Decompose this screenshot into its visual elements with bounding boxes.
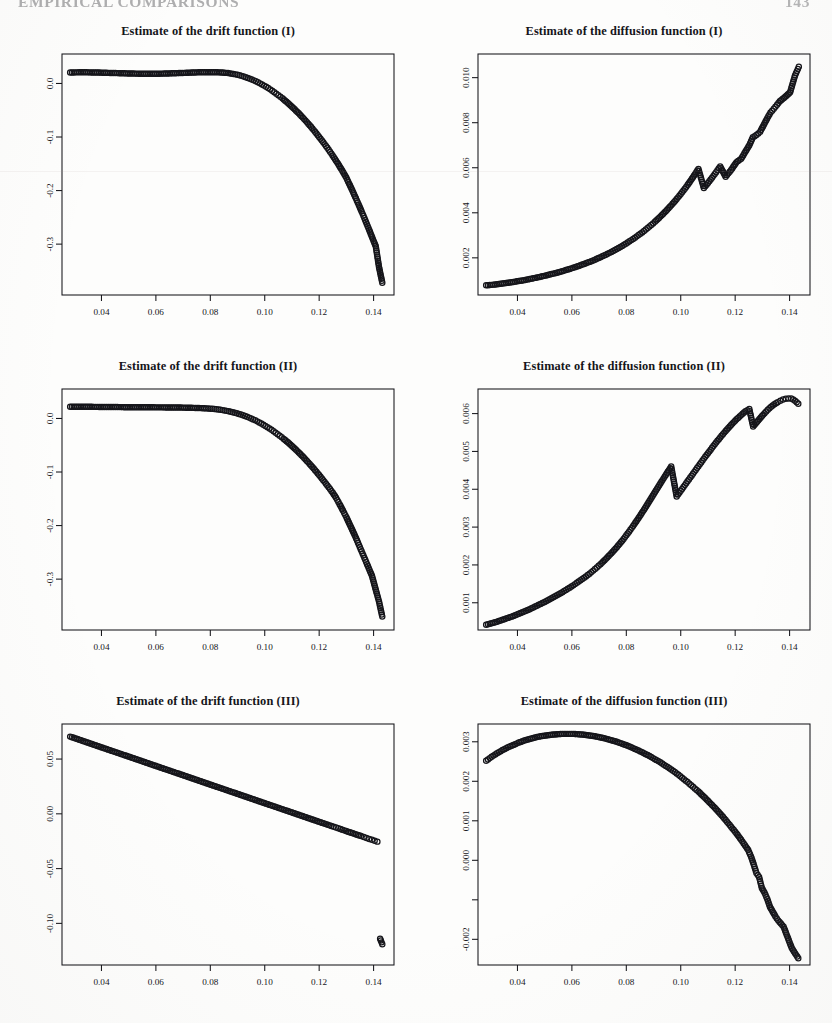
x-tick-label: 0.04 [93, 307, 109, 317]
plot-panel-drift-2: Estimate of the drift function (II)0.040… [0, 353, 416, 688]
plot-panel-diffusion-1: Estimate of the diffusion function (I)0.… [416, 18, 832, 353]
x-tick-label: 0.06 [148, 307, 164, 317]
data-series-diffusion-1 [484, 64, 802, 288]
y-tick-label: 0.002 [461, 554, 471, 575]
x-tick-label: 0.10 [673, 307, 689, 317]
x-tick-label: 0.14 [366, 977, 382, 987]
y-tick-label: -0.2 [45, 518, 55, 533]
figure-grid: Estimate of the drift function (I)0.040.… [0, 18, 832, 1023]
x-tick-label: 0.14 [782, 307, 798, 317]
y-tick-label: -0.1 [45, 464, 55, 479]
y-tick-label: 0.000 [461, 850, 471, 871]
x-tick-label: 0.12 [727, 307, 743, 317]
x-tick-label: 0.14 [782, 977, 798, 987]
x-tick-label: 0.12 [311, 977, 327, 987]
plot-canvas-diffusion-3: 0.040.060.080.100.120.140.0030.0020.0010… [416, 688, 832, 1023]
data-series-diffusion-3 [484, 731, 801, 961]
y-tick-label: -0.3 [45, 236, 55, 251]
x-tick-label: 0.10 [673, 642, 689, 652]
y-tick-label: 0.001 [461, 592, 471, 613]
y-tick-label: 0.010 [461, 67, 471, 88]
x-tick-label: 0.04 [509, 977, 525, 987]
x-tick-label: 0.10 [257, 642, 273, 652]
plot-canvas-diffusion-2: 0.040.060.080.100.120.140.0010.0020.0030… [416, 353, 832, 688]
y-tick-label: -0.05 [45, 859, 55, 879]
y-tick-label: 0.003 [461, 516, 471, 537]
x-tick-label: 0.08 [618, 977, 634, 987]
y-tick-label: 0.006 [461, 403, 471, 424]
y-tick-label: 0.003 [461, 731, 471, 752]
x-tick-label: 0.12 [311, 307, 327, 317]
plot-frame [62, 724, 394, 965]
running-head: EMPIRICAL COMPARISONS 143 [0, 0, 832, 9]
x-tick-label: 0.12 [311, 642, 327, 652]
x-tick-label: 0.06 [564, 642, 580, 652]
data-series-drift-3 [68, 734, 385, 947]
x-tick-label: 0.06 [148, 977, 164, 987]
plot-panel-diffusion-3: Estimate of the diffusion function (III)… [416, 688, 832, 1023]
data-series-drift-1 [68, 70, 385, 286]
x-tick-label: 0.10 [257, 977, 273, 987]
x-tick-label: 0.06 [564, 977, 580, 987]
x-tick-label: 0.12 [727, 977, 743, 987]
y-tick-label: -0.2 [45, 183, 55, 198]
x-tick-label: 0.06 [564, 307, 580, 317]
x-tick-label: 0.14 [366, 642, 382, 652]
x-tick-label: 0.08 [618, 642, 634, 652]
x-tick-label: 0.12 [727, 642, 743, 652]
plot-panel-drift-3: Estimate of the drift function (III)0.04… [0, 688, 416, 1023]
x-tick-label: 0.08 [618, 307, 634, 317]
x-tick-label: 0.10 [257, 307, 273, 317]
x-tick-label: 0.10 [673, 977, 689, 987]
y-tick-label: 0.0 [45, 412, 55, 424]
y-tick-label: 0.002 [461, 771, 471, 792]
plot-canvas-diffusion-1: 0.040.060.080.100.120.140.0020.0040.0060… [416, 18, 832, 353]
x-tick-label: 0.14 [366, 307, 382, 317]
plot-canvas-drift-2: 0.040.060.080.100.120.140.0-0.1-0.2-0.3 [0, 353, 416, 688]
x-tick-label: 0.14 [782, 642, 798, 652]
y-tick-label: 0.002 [461, 247, 471, 268]
y-tick-label: -0.1 [45, 129, 55, 144]
plot-canvas-drift-3: 0.040.060.080.100.120.140.050.00-0.05-0.… [0, 688, 416, 1023]
y-tick-label: -0.10 [45, 913, 55, 933]
running-head-title: EMPIRICAL COMPARISONS [18, 0, 239, 9]
y-tick-label: 0.008 [461, 112, 471, 133]
x-tick-label: 0.04 [93, 977, 109, 987]
y-tick-label: 0.00 [45, 805, 55, 821]
y-tick-label: 0.0 [45, 77, 55, 89]
x-tick-label: 0.04 [93, 642, 109, 652]
x-tick-label: 0.04 [509, 307, 525, 317]
x-tick-label: 0.08 [202, 642, 218, 652]
plot-frame [478, 54, 810, 295]
y-tick-label: -0.3 [45, 571, 55, 586]
plot-panel-drift-1: Estimate of the drift function (I)0.040.… [0, 18, 416, 353]
data-series-drift-2 [68, 404, 385, 619]
y-tick-label: 0.004 [461, 479, 471, 500]
x-tick-label: 0.04 [509, 642, 525, 652]
y-tick-label: -0.002 [461, 927, 471, 951]
y-tick-label: 0.001 [461, 810, 471, 831]
y-tick-label: 0.004 [461, 202, 471, 223]
plot-frame [478, 724, 810, 965]
y-tick-label: 0.05 [45, 751, 55, 767]
y-tick-label: 0.005 [461, 441, 471, 462]
data-series-diffusion-2 [484, 396, 801, 627]
scan-artifact-line [0, 171, 832, 172]
x-tick-label: 0.08 [202, 307, 218, 317]
x-tick-label: 0.06 [148, 642, 164, 652]
x-tick-label: 0.08 [202, 977, 218, 987]
y-tick-label: 0.006 [461, 157, 471, 178]
plot-canvas-drift-1: 0.040.060.080.100.120.140.0-0.1-0.2-0.3 [0, 18, 416, 353]
plot-panel-diffusion-2: Estimate of the diffusion function (II)0… [416, 353, 832, 688]
page-number: 143 [785, 0, 810, 9]
